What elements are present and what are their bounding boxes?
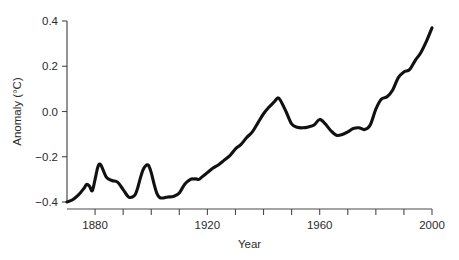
- x-tick-label: 1960: [307, 219, 333, 231]
- temperature-anomaly-line: [67, 28, 432, 202]
- line-chart: −0.4−0.20.00.20.4 1880192019602000 Anoma…: [0, 0, 459, 260]
- chart-figure: −0.4−0.20.00.20.4 1880192019602000 Anoma…: [0, 0, 459, 260]
- y-tick-label: 0.2: [42, 60, 58, 72]
- y-axis-tick-labels: −0.4−0.20.00.20.4: [35, 15, 58, 208]
- axis-tickmarks: [62, 21, 432, 215]
- y-tick-label: −0.2: [35, 151, 58, 163]
- x-tick-label: 1920: [195, 219, 221, 231]
- x-axis-title: Year: [238, 238, 261, 250]
- x-axis-tick-labels: 1880192019602000: [82, 219, 445, 231]
- y-tick-label: 0.0: [42, 106, 58, 118]
- x-tick-label: 1880: [82, 219, 108, 231]
- y-axis-title: Anomaly (°C): [11, 77, 23, 146]
- y-tick-label: −0.4: [35, 196, 58, 208]
- x-tick-label: 2000: [419, 219, 445, 231]
- y-tick-label: 0.4: [42, 15, 59, 27]
